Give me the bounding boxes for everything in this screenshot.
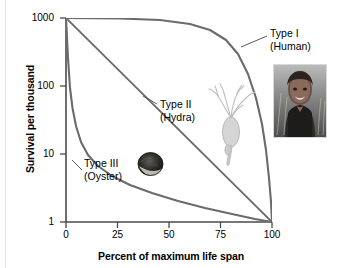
hydra-illustration-graphic — [209, 84, 255, 164]
annotation-type-1: Type I (Human) — [270, 27, 311, 52]
annotation-type-2: Type II (Hydra) — [160, 98, 195, 123]
human-photograph — [273, 64, 327, 138]
annotation-type-3-line2: (Oyster) — [84, 170, 122, 183]
annotation-type-3: Type III (Oyster) — [84, 157, 122, 182]
y-axis-title: Survival per thousand — [24, 19, 36, 219]
x-tick-label-100: 100 — [252, 229, 292, 240]
x-axis-ticks — [66, 222, 272, 228]
y-axis-ticks — [60, 18, 66, 222]
leader-line-type-1 — [241, 36, 267, 47]
annotation-type-2-line1: Type II — [160, 98, 195, 111]
x-axis-title: Percent of maximum life span — [0, 250, 342, 262]
annotation-type-1-line2: (Human) — [270, 40, 311, 53]
annotation-type-2-line2: (Hydra) — [160, 111, 195, 124]
x-tick-label-25: 25 — [98, 229, 138, 240]
annotation-type-3-line1: Type III — [84, 157, 122, 170]
leader-line-type-3 — [72, 160, 82, 170]
x-tick-label-50: 50 — [149, 229, 189, 240]
x-tick-label-75: 75 — [201, 229, 241, 240]
survivorship-curve-figure: 1000 100 10 1 0 25 50 75 100 Percent of … — [0, 0, 342, 268]
leader-line-type-2 — [143, 96, 157, 104]
oyster-photograph — [137, 152, 164, 177]
annotation-type-1-line1: Type I — [270, 27, 311, 40]
x-tick-label-0: 0 — [46, 229, 86, 240]
